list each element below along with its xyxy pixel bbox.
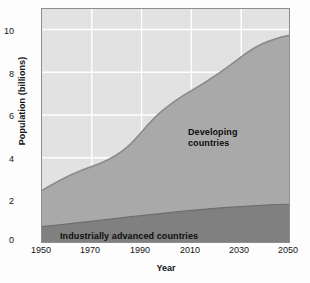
x-tick-label-2050: 2050	[266, 245, 310, 255]
x-tick-label-1950: 1950	[19, 245, 63, 255]
x-tick-label-2030: 2030	[217, 245, 261, 255]
y-tick-label-4: 4	[0, 154, 14, 164]
y-tick-label-8: 8	[0, 69, 14, 79]
annotation-developing-line2: countries	[188, 138, 274, 149]
x-tick-label-2010: 2010	[168, 245, 212, 255]
y-tick-label-10: 10	[0, 26, 14, 36]
annotation-industrially-advanced-countries: Industrially advanced countries	[60, 231, 260, 242]
y-tick-label-0: 0	[0, 235, 14, 245]
area-chart-svg	[42, 9, 290, 243]
x-tick-label-1990: 1990	[118, 245, 162, 255]
annotation-developing-countries: Developing countries	[188, 127, 274, 149]
x-axis-title: Year	[41, 263, 291, 273]
x-tick-label-1970: 1970	[68, 245, 112, 255]
y-tick-label-6: 6	[0, 111, 14, 121]
y-tick-label-2: 2	[0, 196, 14, 206]
plot-area	[41, 8, 290, 243]
chart-figure: Population (billions) 10 8 6 4 2 0	[0, 0, 310, 283]
annotation-developing-line1: Developing	[188, 127, 274, 138]
y-axis-title: Population (billions)	[17, 31, 27, 171]
